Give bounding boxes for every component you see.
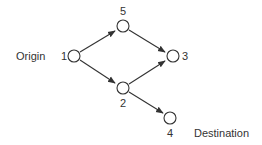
node-4 (164, 112, 176, 124)
edge-1-to-2 (80, 60, 115, 83)
node-2-label: 2 (120, 97, 126, 109)
node-2 (117, 82, 129, 94)
edge-1-to-5 (80, 31, 115, 52)
node-4-label: 4 (167, 127, 173, 139)
node-5 (117, 20, 129, 32)
edge-5-to-3 (129, 30, 165, 52)
node-1 (68, 50, 80, 62)
node-3 (167, 50, 179, 62)
origin-label: Origin (16, 50, 45, 62)
edge-2-to-4 (129, 92, 163, 113)
node-1-label: 1 (61, 50, 67, 62)
destination-label: Destination (194, 127, 249, 139)
network-diagram: 1 5 3 2 4 Origin Destination (0, 0, 262, 145)
node-3-label: 3 (182, 50, 188, 62)
edge-2-to-3 (129, 61, 165, 84)
node-5-label: 5 (120, 5, 126, 17)
